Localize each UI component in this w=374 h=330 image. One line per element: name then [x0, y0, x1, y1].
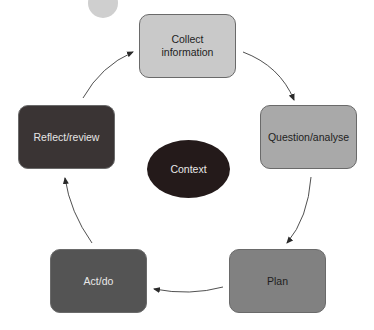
cycle-diagram: Collect information Question/analyse Pla…	[0, 0, 374, 330]
arrow-collect-to-question	[243, 52, 294, 100]
node-label: Reflect/review	[34, 131, 100, 144]
node-label: Collect information	[146, 33, 229, 59]
node-collect-information: Collect information	[139, 14, 236, 78]
context-label: Context	[170, 163, 206, 175]
node-plan: Plan	[229, 249, 326, 313]
arrow-act-to-reflect	[65, 178, 92, 243]
center-context-ellipse: Context	[147, 140, 230, 198]
node-question-analyse: Question/analyse	[260, 105, 357, 169]
node-label: Question/analyse	[268, 131, 349, 144]
arrow-question-to-plan	[287, 177, 311, 243]
node-label: Act/do	[84, 275, 114, 288]
arrow-reflect-to-collect	[83, 52, 133, 98]
arrow-plan-to-act	[154, 287, 223, 292]
node-reflect-review: Reflect/review	[18, 105, 115, 169]
node-act-do: Act/do	[50, 249, 147, 313]
node-label: Plan	[267, 275, 288, 288]
